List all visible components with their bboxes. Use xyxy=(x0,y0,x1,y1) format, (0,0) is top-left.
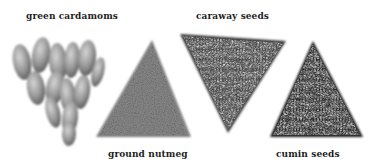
cardamom-label: green cardamoms xyxy=(26,11,118,21)
cumin-pile xyxy=(270,41,363,137)
cardamom-pile xyxy=(10,36,107,146)
nutmeg-label: ground nutmeg xyxy=(108,149,188,159)
caraway-label: caraway seeds xyxy=(196,11,269,21)
caraway-pile xyxy=(180,34,286,133)
cumin-label: cumin seeds xyxy=(276,149,340,159)
spice-piles-graphic xyxy=(0,0,383,162)
spice-illustration: green cardamoms caraway seeds ground nut… xyxy=(0,0,383,162)
nutmeg-pile xyxy=(96,40,191,137)
